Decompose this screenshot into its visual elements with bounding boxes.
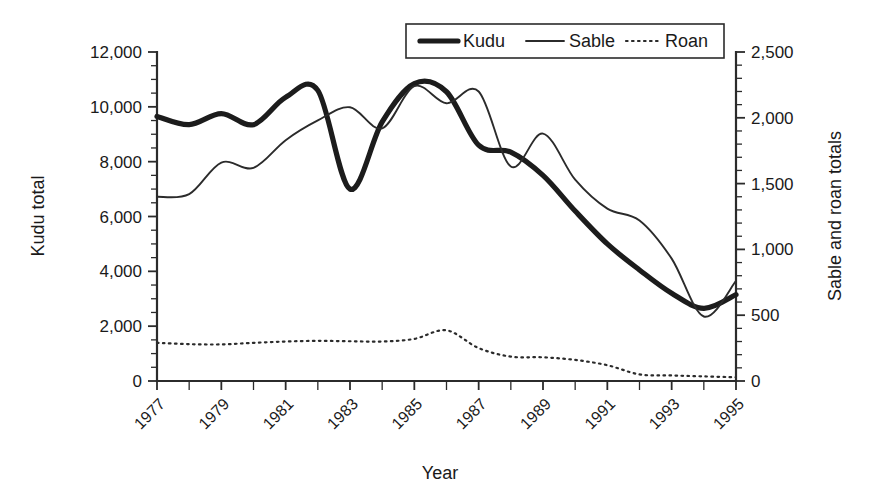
y-tick-label-right: 500	[751, 306, 779, 325]
y-axis-left-title: Kudu total	[28, 175, 48, 256]
y-axis-right-title: Sable and roan totals	[825, 131, 845, 301]
x-tick-label: 1987	[453, 395, 490, 432]
y-tick-label-left: 10,000	[90, 98, 142, 117]
figure-container: 1977197919811983198519871989199119931995…	[0, 0, 876, 503]
y-tick-label-left: 8,000	[99, 153, 142, 172]
x-tick-label: 1983	[324, 395, 361, 432]
x-tick-label: 1989	[517, 395, 554, 432]
x-tick-label: 1995	[710, 395, 747, 432]
x-tick-label: 1979	[195, 395, 232, 432]
x-axis-title: Year	[422, 463, 458, 483]
line-chart: 1977197919811983198519871989199119931995…	[0, 0, 876, 503]
y-tick-label-left: 6,000	[99, 208, 142, 227]
x-tick-label: 1981	[260, 395, 297, 432]
y-tick-label-right: 0	[751, 372, 760, 391]
legend-label-sable: Sable	[569, 31, 615, 51]
y-tick-label-left: 4,000	[99, 262, 142, 281]
x-tick-label: 1985	[388, 395, 425, 432]
y-tick-label-right: 1,500	[751, 175, 794, 194]
x-tick-label: 1993	[646, 395, 683, 432]
series-line-kudu	[157, 81, 736, 308]
series-line-sable	[157, 86, 736, 317]
series-layer	[157, 81, 736, 377]
chart-legend: KuduSableRoan	[406, 24, 724, 58]
y-tick-label-left: 2,000	[99, 317, 142, 336]
x-tick-label: 1991	[581, 395, 618, 432]
y-tick-label-right: 2,000	[751, 109, 794, 128]
series-line-roan	[157, 330, 736, 377]
axes-layer	[157, 52, 736, 381]
y-tick-label-left: 0	[133, 372, 142, 391]
y-tick-label-left: 12,000	[90, 43, 142, 62]
y-tick-label-right: 1,000	[751, 240, 794, 259]
legend-label-kudu: Kudu	[463, 31, 505, 51]
x-tick-label: 1977	[131, 395, 168, 432]
legend-label-roan: Roan	[665, 31, 708, 51]
y-tick-label-right: 2,500	[751, 43, 794, 62]
